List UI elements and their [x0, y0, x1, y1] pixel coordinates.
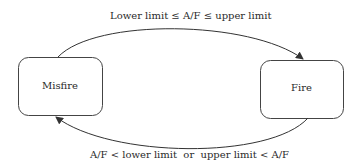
- transition-arrow-fire-to-misfire: [56, 117, 308, 149]
- transition-arrow-misfire-to-fire: [58, 29, 303, 59]
- state-diagram: Lower limit ≤ A/F ≤ upper limit A/F < lo…: [0, 0, 362, 166]
- misfire-state-label: Misfire: [42, 80, 78, 91]
- transition-label-top: Lower limit ≤ A/F ≤ upper limit: [110, 10, 271, 21]
- fire-state-label: Fire: [291, 82, 312, 93]
- transition-label-bottom: A/F < lower limit or upper limit < A/F: [90, 149, 289, 160]
